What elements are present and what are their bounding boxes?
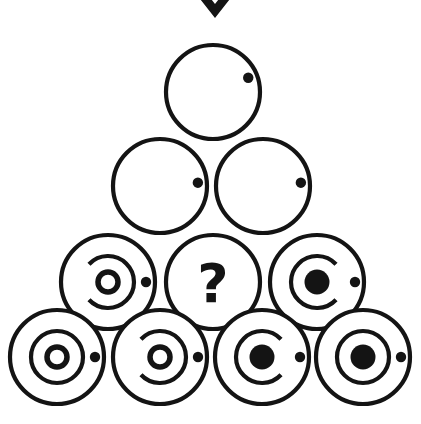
puzzle-cell-row2-circle1 — [113, 139, 207, 233]
satellite-dot — [90, 352, 100, 362]
core-hollow-ring — [98, 272, 118, 292]
satellite-dot — [193, 177, 203, 187]
core-filled-disc — [305, 270, 330, 295]
core-filled-disc — [351, 345, 376, 370]
puzzle-cell-row4-circle1 — [10, 310, 104, 404]
puzzle-stage: ? — [0, 0, 421, 424]
outer-circle — [216, 139, 310, 233]
puzzle-cell-row2-circle2 — [216, 139, 310, 233]
outer-circle — [166, 45, 260, 139]
puzzle-cell-row4-circle2 — [113, 310, 207, 404]
core-hollow-ring — [150, 347, 170, 367]
satellite-dot — [193, 352, 203, 362]
satellite-dot — [396, 352, 406, 362]
satellite-dot — [350, 277, 360, 287]
puzzle-canvas: ? — [0, 0, 421, 424]
satellite-dot — [296, 177, 306, 187]
question-mark-glyph: ? — [197, 252, 228, 315]
core-hollow-ring — [47, 347, 67, 367]
puzzle-cell-row4-circle4 — [316, 310, 410, 404]
outer-circle — [113, 139, 207, 233]
satellite-dot — [141, 277, 151, 287]
satellite-dot — [243, 73, 253, 83]
core-filled-disc — [250, 345, 275, 370]
puzzle-cell-row4-circle3 — [215, 310, 309, 404]
puzzle-cell-row1-circle1 — [166, 45, 260, 139]
satellite-dot — [295, 352, 305, 362]
